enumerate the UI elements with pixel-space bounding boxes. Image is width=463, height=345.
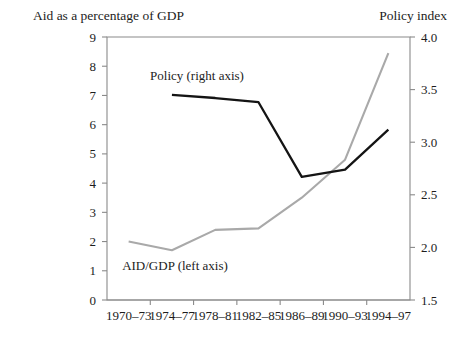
right-axis-tick-label: 2.5 <box>421 187 437 202</box>
x-axis-tick-label: 1974–77 <box>149 308 195 323</box>
right-axis-tick-label: 1.5 <box>421 293 437 308</box>
x-axis-tick-label: 1990–93 <box>322 308 368 323</box>
left-axis-tick-label: 6 <box>90 117 97 132</box>
policy-line-series <box>172 95 388 177</box>
right-axis-tick-label: 3.5 <box>421 82 437 97</box>
x-axis-tick-label: 1978–81 <box>192 308 238 323</box>
left-axis-tick-label: 5 <box>90 146 97 161</box>
chart-canvas: 0123456789 1.52.02.53.03.54.0 1970–73197… <box>0 0 463 345</box>
left-axis-tick-label: 9 <box>90 30 97 45</box>
x-axis-tick-label: 1982–85 <box>236 308 282 323</box>
right-axis-tick-label: 3.0 <box>421 135 437 150</box>
x-axis-tick-group: 1970–731974–771978–811982–851986–891990–… <box>106 300 412 323</box>
left-axis-tick-label: 4 <box>90 176 97 191</box>
left-axis-tick-label: 8 <box>90 59 97 74</box>
left-axis-tick-group: 0123456789 <box>90 30 108 308</box>
left-axis-tick-label: 3 <box>90 205 97 220</box>
right-axis-tick-label: 4.0 <box>421 30 437 45</box>
left-axis-tick-label: 7 <box>90 88 97 103</box>
policy-series-label: Policy (right axis) <box>150 68 244 83</box>
aid-gdp-series-label: AID/GDP (left axis) <box>122 258 228 273</box>
x-axis-tick-label: 1970–73 <box>106 308 152 323</box>
left-axis-tick-label: 1 <box>90 263 97 278</box>
right-axis-tick-label: 2.0 <box>421 240 437 255</box>
left-axis-tick-label: 2 <box>90 234 97 249</box>
x-axis-tick-label: 1994–97 <box>366 308 412 323</box>
x-axis-tick-label: 1986–89 <box>279 308 325 323</box>
right-axis-tick-group: 1.52.02.53.03.54.0 <box>410 30 437 308</box>
left-axis-tick-label: 0 <box>90 293 97 308</box>
chart-figure: Aid as a percentage of GDP Policy index … <box>0 0 463 345</box>
